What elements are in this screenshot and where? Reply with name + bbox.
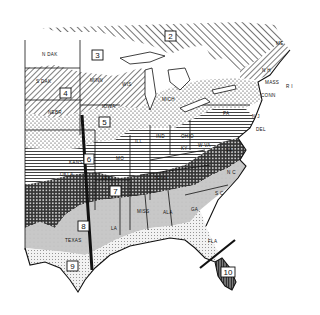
state-label-w-va: W VA: [198, 143, 211, 148]
svg-text:9: 9: [70, 262, 75, 271]
state-label-del: DEL: [256, 127, 266, 132]
zone-8-label: 8: [78, 221, 89, 231]
state-label-nebr: NEBR: [48, 110, 62, 115]
state-label-miss: MISS: [137, 209, 149, 214]
state-label-wis: WIS: [122, 82, 132, 87]
state-label-iowa: IOWA: [102, 104, 116, 109]
state-label-n-c: N C: [227, 170, 236, 175]
state-label-mass: MASS: [265, 80, 279, 85]
state-label-r-i: R I: [286, 84, 293, 89]
state-label-s-dak: S DAK: [36, 79, 52, 84]
state-label-ill: ILL: [135, 139, 142, 144]
state-label-ga: GA: [191, 207, 199, 212]
zone-10-label: 10: [221, 267, 235, 277]
state-label-texas: TEXAS: [65, 238, 82, 243]
state-label-n-j: N J: [252, 114, 260, 119]
zone-9-label: 9: [67, 261, 78, 271]
state-label-tenn: TENN: [154, 176, 168, 181]
svg-text:2: 2: [168, 32, 173, 41]
svg-text:5: 5: [102, 118, 107, 127]
state-label-fla: FLA: [208, 239, 218, 244]
state-label-pa: PA: [223, 111, 230, 116]
state-label-ark: ARK: [101, 176, 112, 181]
state-label-n-h: N H: [262, 68, 271, 73]
zone-2-label: 2: [165, 31, 176, 41]
state-label-okla: OKLA: [60, 172, 74, 177]
state-label-va: VA: [226, 148, 233, 153]
state-label-n-dak: N DAK: [42, 52, 58, 57]
state-label-ind: IND: [156, 134, 165, 139]
state-label-la: LA: [111, 226, 118, 231]
svg-text:8: 8: [81, 222, 86, 231]
svg-text:6: 6: [87, 155, 92, 164]
svg-text:7: 7: [113, 187, 118, 196]
state-label-ala: ALA: [163, 210, 173, 215]
zone-6-label: 6: [84, 154, 94, 164]
hardiness-zone-map: N DAK S DAK NEBR MINN WIS IOWA MICH ILL …: [0, 0, 320, 315]
state-label-minn: MINN: [90, 78, 103, 83]
state-label-mich: MICH: [162, 97, 175, 102]
state-label-s-c: S C: [215, 191, 224, 196]
svg-text:4: 4: [63, 89, 68, 98]
state-label-me: ME: [276, 41, 284, 46]
zone-3-label: 3: [92, 50, 103, 60]
state-label-conn: CONN: [261, 93, 276, 98]
svg-text:10: 10: [224, 268, 233, 277]
zone-4-label: 4: [60, 88, 71, 98]
state-label-ky: KY: [181, 146, 188, 151]
state-label-mo: MO: [116, 156, 124, 161]
svg-text:3: 3: [95, 51, 100, 60]
state-label-kans: KANS: [69, 160, 83, 165]
zone-7-label: 7: [110, 186, 121, 196]
zone-5-label: 5: [99, 117, 110, 127]
state-label-ohio: OHIO: [181, 134, 194, 139]
